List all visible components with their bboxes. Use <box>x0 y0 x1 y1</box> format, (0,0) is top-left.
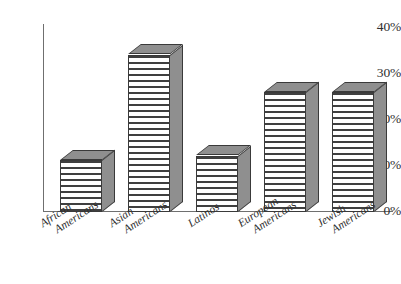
bar-chart: 40% 30% 20% 10% 0% <box>0 0 401 284</box>
bar-asian-americans <box>128 55 170 212</box>
bar-side-face-0 <box>102 150 115 212</box>
bar-side-face-1 <box>170 44 183 212</box>
bars-layer <box>0 0 401 284</box>
bar-side-face-3 <box>306 82 319 212</box>
bar-side-face-2 <box>238 145 251 212</box>
bar-front-face-1 <box>128 55 170 212</box>
bar-side-face-4 <box>374 82 387 212</box>
